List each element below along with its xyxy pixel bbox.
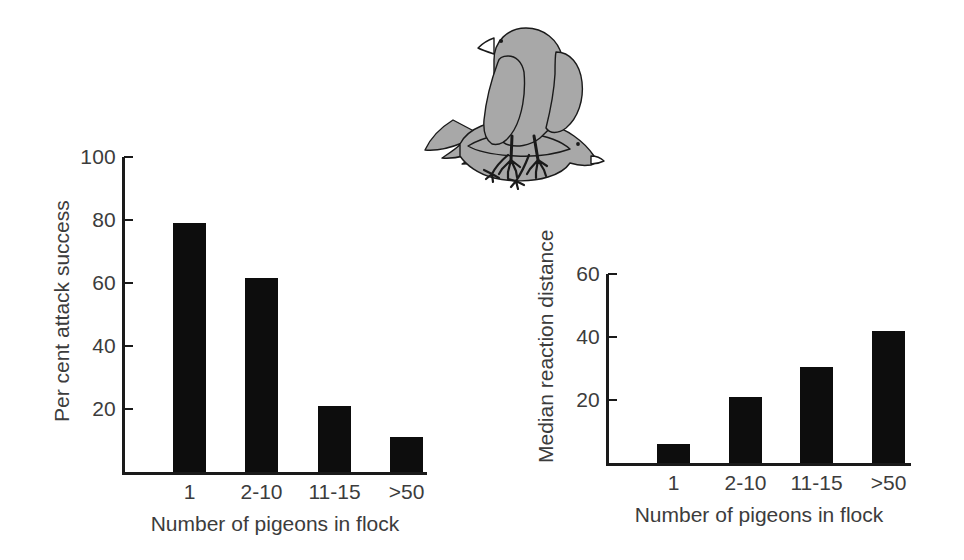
- right-chart-x-axis: [606, 463, 911, 466]
- right-chart-bar-4: [872, 331, 905, 463]
- left-chart-tick-label-60: 60: [60, 271, 116, 295]
- right-chart-tick-40: [608, 336, 617, 338]
- figure-canvas: Per cent attack success 100 80 60 40 20 …: [0, 0, 964, 560]
- left-chart-bar-4: [390, 437, 423, 472]
- left-chart-tick-label-40: 40: [60, 334, 116, 358]
- left-chart-tick-20: [124, 408, 133, 410]
- raptor-left-leg: [511, 136, 512, 160]
- left-chart-tick-40: [124, 345, 133, 347]
- left-chart-category-label-1: 1: [150, 480, 229, 504]
- right-chart-tick-60: [608, 273, 617, 275]
- right-chart-category-label-3: 11-15: [777, 471, 856, 495]
- raptor-beak: [478, 38, 494, 54]
- right-chart-x-axis-title: Number of pigeons in flock: [614, 503, 904, 527]
- left-chart-category-label-2: 2-10: [222, 480, 301, 504]
- left-chart-tick-label-80: 80: [60, 208, 116, 232]
- right-chart-category-label-4: >50: [849, 471, 928, 495]
- right-chart-bar-1: [657, 444, 690, 463]
- right-chart-y-axis: [606, 274, 609, 465]
- left-chart-category-label-3: 11-15: [295, 480, 374, 504]
- left-chart-y-axis-title: Per cent attack success: [50, 200, 74, 422]
- raptor-on-pigeon-illustration: [398, 8, 618, 208]
- left-chart-bar-3: [318, 406, 351, 472]
- left-chart-tick-100: [124, 156, 133, 158]
- left-chart-y-axis: [122, 157, 125, 474]
- right-chart-tick-label-20: 20: [544, 388, 600, 412]
- left-chart-bar-1: [173, 223, 206, 472]
- pigeon-beak: [591, 156, 604, 164]
- right-chart-bar-2: [729, 397, 762, 463]
- left-chart-category-label-4: >50: [367, 480, 446, 504]
- left-chart-bar-2: [245, 278, 278, 472]
- left-chart-tick-label-20: 20: [60, 397, 116, 421]
- right-chart-tick-label-40: 40: [544, 325, 600, 349]
- right-chart-tick-20: [608, 399, 617, 401]
- right-chart-category-label-1: 1: [634, 471, 713, 495]
- left-chart-tick-label-100: 100: [60, 145, 116, 169]
- left-chart-tick-60: [124, 282, 133, 284]
- raptor-eye: [499, 39, 503, 43]
- right-chart-bar-3: [800, 367, 833, 463]
- left-chart-tick-80: [124, 219, 133, 221]
- right-chart-tick-label-60: 60: [544, 262, 600, 286]
- pigeon-eye: [576, 142, 580, 146]
- left-chart-x-axis: [122, 472, 427, 475]
- left-chart-x-axis-title: Number of pigeons in flock: [130, 512, 420, 536]
- right-chart-category-label-2: 2-10: [706, 471, 785, 495]
